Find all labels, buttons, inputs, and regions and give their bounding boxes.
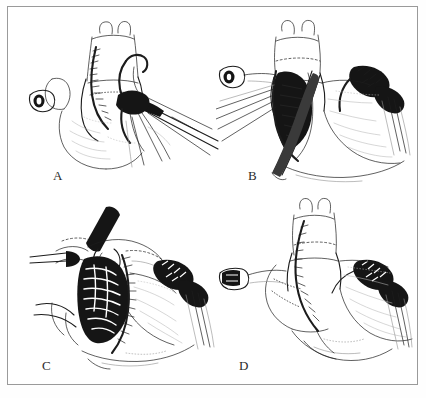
base-contour-b bbox=[286, 161, 404, 182]
sutured-graft-c bbox=[153, 260, 208, 308]
suture-threads-b bbox=[216, 85, 276, 141]
vessel-stump-lower-c bbox=[34, 303, 78, 345]
panel-b-illustration bbox=[216, 17, 414, 199]
panel-a-illustration bbox=[22, 17, 220, 199]
panel-b bbox=[216, 17, 414, 199]
open-cavity-c bbox=[77, 256, 129, 343]
lower-contour-c bbox=[82, 345, 194, 369]
atrial-appendage-a bbox=[45, 78, 70, 109]
panel-d-illustration bbox=[216, 195, 414, 377]
aorta-arch-b bbox=[275, 20, 321, 77]
figure-plate: A B C D bbox=[0, 0, 426, 398]
panel-label-b: B bbox=[248, 169, 257, 182]
completed-suture-line-d bbox=[295, 221, 319, 331]
cannula-tube-d bbox=[219, 268, 286, 290]
lower-contour-d bbox=[292, 329, 392, 361]
figure-border: A B C D bbox=[7, 6, 418, 385]
panel-d bbox=[216, 195, 414, 377]
sutured-patch-b bbox=[339, 66, 404, 114]
panel-label-c: C bbox=[42, 359, 51, 372]
cannula-tube-b bbox=[219, 66, 276, 88]
panel-c bbox=[22, 195, 220, 377]
cannula-tube-a bbox=[29, 90, 54, 112]
panel-label-a: A bbox=[53, 169, 63, 182]
panel-label-d: D bbox=[239, 359, 249, 372]
suture-line-a bbox=[90, 47, 111, 129]
suture-threads-a bbox=[126, 113, 170, 167]
panel-c-illustration bbox=[22, 195, 220, 377]
panel-a bbox=[22, 17, 220, 199]
aorta-arch-d bbox=[293, 198, 337, 255]
